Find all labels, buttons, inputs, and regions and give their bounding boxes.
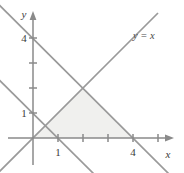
shaded-triangle-region xyxy=(33,88,133,138)
y-tick-label-4: 4 xyxy=(21,32,27,44)
line-label-y-equals-x: y = x xyxy=(132,30,155,41)
math-figure-coordinate-plane: 1 4 1 4 x y y = x xyxy=(0,0,184,173)
plot-canvas: 1 4 1 4 x y y = x xyxy=(0,0,184,173)
x-tick-label-1: 1 xyxy=(55,146,61,158)
x-tick-label-4: 4 xyxy=(130,146,136,158)
x-axis-arrowhead xyxy=(165,135,174,142)
y-axis-label: y xyxy=(21,8,27,20)
x-axis-label: x xyxy=(165,148,171,160)
y-tick-label-1: 1 xyxy=(21,107,27,119)
y-axis-arrowhead xyxy=(30,11,37,20)
